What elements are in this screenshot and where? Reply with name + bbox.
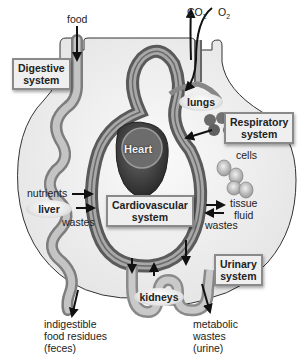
label-o2: O2 xyxy=(218,6,230,23)
kidneys-organ-label: kidneys xyxy=(134,288,184,306)
feces-line1: indigestible xyxy=(44,318,107,330)
urinary-system-line1: Urinary xyxy=(220,258,257,270)
lungs-organ-label: lungs xyxy=(179,93,223,111)
digestive-system-line2: system xyxy=(18,74,65,86)
o2-text: O xyxy=(218,6,226,18)
tissue-fluid-line1: tissue xyxy=(230,197,257,209)
respiratory-system-line2: system xyxy=(230,128,288,140)
heart-label: Heart xyxy=(124,143,152,155)
co2-text: CO xyxy=(187,6,203,18)
urine-line2: wastes xyxy=(193,330,238,342)
respiratory-system-box: Respiratory system xyxy=(224,112,294,144)
cardiovascular-system-line1: Cardiovascular xyxy=(112,199,188,211)
label-wastes-left: wastes xyxy=(62,216,95,228)
cardiovascular-system-box: Cardiovascular system xyxy=(106,195,194,227)
urine-line1: metabolic xyxy=(193,318,238,330)
digestive-system-box: Digestive system xyxy=(12,58,71,90)
feces-line3: (feces) xyxy=(44,342,107,354)
urinary-system-box: Urinary system xyxy=(214,254,263,286)
feces-line2: food residues xyxy=(44,330,107,342)
co2-subscript: 2 xyxy=(203,13,207,20)
label-tissue-fluid: tissue fluid xyxy=(230,197,257,221)
label-cells: cells xyxy=(236,149,257,161)
respiratory-system-line1: Respiratory xyxy=(230,116,288,128)
o2-subscript: 2 xyxy=(226,13,230,20)
label-nutrients: nutrients xyxy=(27,187,67,199)
label-urine: metabolic wastes (urine) xyxy=(193,318,238,354)
label-feces: indigestible food residues (feces) xyxy=(44,318,107,354)
label-food: food xyxy=(67,13,87,25)
urinary-system-line2: system xyxy=(220,270,257,282)
cardiovascular-system-line2: system xyxy=(112,211,188,223)
label-wastes-right: wastes xyxy=(205,219,238,231)
label-co2: CO2 xyxy=(187,6,207,23)
digestive-system-line1: Digestive xyxy=(18,62,65,74)
urine-line3: (urine) xyxy=(193,342,238,354)
